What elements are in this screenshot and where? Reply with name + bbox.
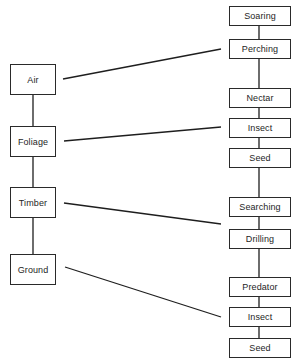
behaviour-label: Searching [239,202,280,212]
behaviour-box-seed-ground: Seed [229,338,291,358]
habitat-label: Timber [19,198,47,208]
habitat-box-foliage: Foliage [10,126,56,157]
behaviour-label: Seed [249,153,270,163]
behaviour-box-insect-ground: Insect [229,307,291,327]
behaviour-label: Insect [248,312,273,322]
link-foliage-insect [64,127,221,141]
habitat-box-air: Air [10,64,56,95]
habitat-label: Ground [18,265,49,275]
habitat-box-timber: Timber [10,187,56,218]
behaviour-box-predator: Predator [229,277,291,297]
link-ground-insect [65,267,221,317]
behaviour-box-soaring: Soaring [229,6,291,26]
behaviour-label: Nectar [246,93,273,103]
behaviour-box-searching: Searching [229,197,291,217]
behaviour-box-drilling: Drilling [229,229,291,249]
behaviour-label: Soaring [244,11,276,21]
link-timber-drilling [64,203,221,224]
behaviour-box-seed-foliage: Seed [229,148,291,168]
behaviour-label: Perching [242,44,278,54]
link-air-perching [63,49,221,79]
behaviour-box-nectar: Nectar [229,88,291,108]
behaviour-box-insect-foliage: Insect [229,118,291,138]
behaviour-label: Insect [248,123,273,133]
behaviour-label: Predator [242,282,277,292]
habitat-label: Air [27,75,38,85]
habitat-label: Foliage [18,137,48,147]
behaviour-box-perching: Perching [229,39,291,59]
habitat-box-ground: Ground [10,254,56,285]
behaviour-label: Seed [249,343,270,353]
behaviour-label: Drilling [246,234,274,244]
